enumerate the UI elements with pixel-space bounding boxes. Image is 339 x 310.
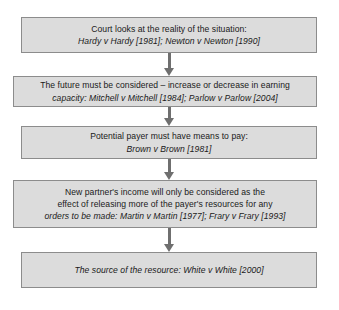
flowchart-node-1: Court looks at the reality of the situat… [21,17,317,53]
flowchart-node-5-text: The source of the resource: White v Whit… [28,264,310,276]
arrow-down-icon-1 [164,53,175,76]
flowchart-node-2-text: The future must be considered – increase… [20,79,310,103]
arrow-head [164,172,174,180]
arrow-head [164,68,174,76]
flowchart-node-4: New partner's income will only be consid… [13,180,317,228]
flowchart-node-5: The source of the resource: White v Whit… [21,252,317,288]
arrow-shaft [168,53,171,69]
arrow-head [164,118,174,126]
flowchart-node-3-text: Potential payer must have means to pay:B… [28,130,310,154]
arrow-down-icon-2 [164,107,175,126]
flowchart-node-1-text: Court looks at the reality of the situat… [28,23,310,47]
flowchart-diagram: Court looks at the reality of the situat… [0,0,339,310]
flowchart-node-2: The future must be considered – increase… [13,76,317,107]
flowchart-node-3: Potential payer must have means to pay:B… [21,126,317,159]
arrow-shaft [168,228,171,245]
arrow-down-icon-4 [164,228,175,252]
flowchart-node-4-text: New partner's income will only be consid… [20,186,310,223]
arrow-head [164,244,174,252]
arrow-shaft [168,159,171,173]
arrow-down-icon-3 [164,159,175,180]
